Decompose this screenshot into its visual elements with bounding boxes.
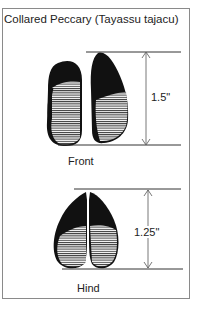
hind-measurement: 1.25" [133,226,160,238]
track-illustration [0,0,197,311]
front-label: Front [68,155,94,167]
hind-track-icon [54,192,119,268]
front-track-icon [47,53,128,146]
hind-label: Hind [77,282,100,294]
front-measurement: 1.5" [151,91,170,103]
